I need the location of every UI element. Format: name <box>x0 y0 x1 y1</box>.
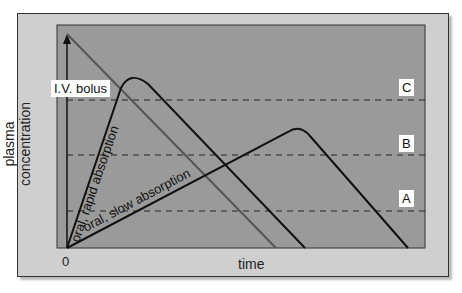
plot-area: oral, rapid absorption oral, slow absorp… <box>0 0 462 293</box>
y-axis-label: plasma concentration <box>1 89 33 199</box>
x-axis-label: time <box>238 256 264 272</box>
level-c-label: C <box>399 79 414 96</box>
level-a-label: A <box>399 190 414 207</box>
iv-bolus-label: I.V. bolus <box>51 80 110 97</box>
origin-label: 0 <box>62 254 69 269</box>
level-b-label: B <box>399 135 414 152</box>
